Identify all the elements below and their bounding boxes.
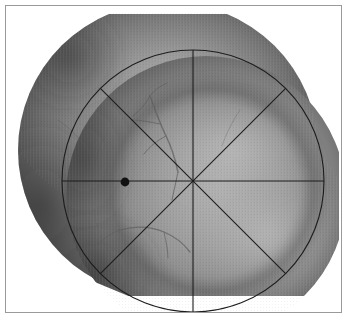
figure-frame-border bbox=[5, 5, 342, 313]
fundus-overlay-svg bbox=[5, 5, 342, 313]
figure-root bbox=[0, 0, 350, 325]
radial-grid-overlay bbox=[62, 50, 324, 312]
fundus-image-canvas bbox=[5, 5, 342, 313]
reference-point-marker bbox=[121, 178, 130, 187]
